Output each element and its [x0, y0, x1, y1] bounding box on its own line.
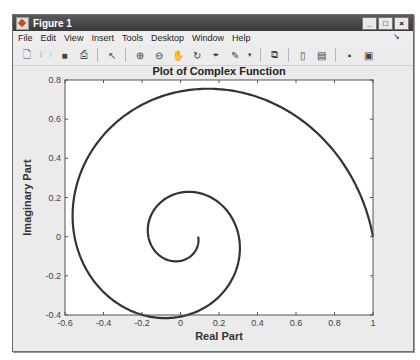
maximize-button[interactable]: □ — [378, 17, 393, 30]
brush-icon[interactable]: ✎ — [228, 49, 241, 62]
y-tick-label: 0.4 — [48, 153, 61, 163]
x-tick-label: 0.8 — [328, 318, 341, 328]
toolbar-separator — [97, 48, 98, 62]
toolbar-separator — [335, 48, 336, 62]
window-title: Figure 1 — [33, 18, 72, 29]
close-button[interactable]: × — [394, 17, 409, 30]
rotate-3d-icon[interactable]: ↻ — [190, 49, 203, 62]
y-tick-label: 0.2 — [48, 193, 61, 203]
hide-tools-icon[interactable]: ▪ — [343, 49, 356, 62]
menu-help[interactable]: Help — [232, 33, 251, 43]
zoom-out-icon[interactable]: ⊖ — [152, 49, 165, 62]
y-tick-label: -0.2 — [45, 271, 61, 281]
y-axis-label: Imaginary Part — [21, 159, 33, 236]
x-tick-label: -0.2 — [134, 318, 150, 328]
hand-icon[interactable]: ✋ — [171, 49, 184, 62]
menu-file[interactable]: File — [18, 33, 33, 43]
y-tick-label: -0.4 — [45, 310, 61, 320]
y-tick-label: 0.6 — [48, 114, 61, 124]
pointer-arrow-icon[interactable]: ↖ — [105, 49, 118, 62]
dock-arrow-icon[interactable]: ↘ — [393, 32, 400, 41]
legend-icon[interactable]: ▤ — [315, 49, 328, 62]
toolbar-separator — [260, 48, 261, 62]
toolbar-separator — [288, 48, 289, 62]
x-tick-label: 1 — [370, 318, 375, 328]
save-icon[interactable]: ■ — [58, 49, 71, 62]
matlab-figure-icon — [16, 17, 29, 30]
menu-bar: File Edit View Insert Tools Desktop Wind… — [13, 31, 413, 45]
title-bar[interactable]: Figure 1 _ □ × — [13, 15, 413, 31]
x-axis-label: Real Part — [195, 330, 243, 342]
figure-window: Figure 1 _ □ × File Edit View Insert Too… — [12, 14, 414, 352]
x-tick-label: 0.4 — [251, 318, 264, 328]
brush-dropdown-icon[interactable]: ▾ — [247, 49, 253, 62]
zoom-in-icon[interactable]: ⊕ — [133, 49, 146, 62]
toolbar-separator — [125, 48, 126, 62]
folder-open-icon[interactable]: 🗁 — [39, 49, 52, 62]
menu-insert[interactable]: Insert — [91, 33, 114, 43]
menu-view[interactable]: View — [64, 33, 83, 43]
new-file-icon[interactable]: 🗋 — [20, 49, 33, 62]
x-tick-label: 0.2 — [213, 318, 226, 328]
print-icon[interactable]: ⎙ — [77, 49, 90, 62]
menu-tools[interactable]: Tools — [122, 33, 143, 43]
menu-window[interactable]: Window — [192, 33, 224, 43]
data-cursor-icon[interactable]: ⌖ — [209, 49, 222, 62]
figure-toolbar: 🗋 🗁 ■ ⎙ ↖ ⊕ ⊖ ✋ ↻ ⌖ ✎ ▾ ⧉ ▯ ▤ ▪ ▣ — [13, 45, 413, 66]
colorbar-icon[interactable]: ▯ — [296, 49, 309, 62]
plot-title: Plot of Complex Function — [152, 66, 285, 77]
menu-desktop[interactable]: Desktop — [151, 33, 184, 43]
menu-edit[interactable]: Edit — [41, 33, 57, 43]
x-tick-label: -0.4 — [96, 318, 112, 328]
y-tick-label: 0.8 — [48, 75, 61, 85]
link-plot-icon[interactable]: ⧉ — [268, 49, 281, 62]
x-tick-label: 0 — [178, 318, 183, 328]
x-tick-label: 0.6 — [290, 318, 303, 328]
figure-canvas[interactable]: -0.6-0.4-0.200.20.40.60.81-0.4-0.200.20.… — [13, 66, 413, 351]
y-tick-label: 0 — [56, 232, 61, 242]
plot-axes[interactable]: -0.6-0.4-0.200.20.40.60.81-0.4-0.200.20.… — [13, 66, 413, 351]
show-tools-icon[interactable]: ▣ — [362, 49, 375, 62]
minimize-button[interactable]: _ — [362, 17, 377, 30]
